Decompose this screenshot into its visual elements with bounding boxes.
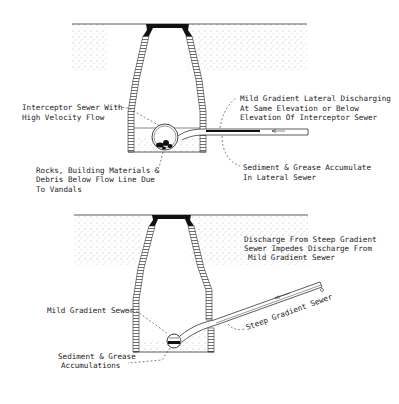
label-lateral-discharge: Mild Gradient Lateral Discharging At Sam… (240, 94, 395, 122)
manhole-diagram: Interceptor Sewer With High Velocity Flo… (0, 0, 399, 404)
interceptor-pipe (152, 124, 178, 150)
pipe-end-icon (321, 289, 324, 292)
bench-left-2 (139, 340, 169, 352)
label-sediment-2: Sediment & Grease Accumulations (58, 352, 140, 370)
leader-lateral (220, 98, 236, 128)
label-rocks: Rocks, Building Materials & Debris Below… (36, 166, 164, 194)
soil-left (72, 24, 108, 71)
wall-left (128, 36, 149, 152)
soil-left-2 (74, 215, 142, 265)
manhole-cover-2 (149, 215, 194, 226)
wall-right-lower (200, 134, 206, 152)
manhole-cover (143, 24, 192, 36)
figure-2: Discharge From Steep Gradient Sewer Impe… (47, 215, 381, 370)
leader-steep-sewer (228, 324, 245, 329)
label-mild-sewer: Mild Gradient Sewer (47, 306, 134, 315)
wall-right-lower-2 (208, 328, 214, 352)
figure-1: Interceptor Sewer With High Velocity Flo… (22, 24, 395, 194)
leader-sediment (222, 136, 240, 166)
label-sediment: Sediment & Grease Accumulate In Lateral … (243, 163, 376, 182)
label-discharge: Discharge From Steep Gradient Sewer Impe… (244, 235, 381, 262)
label-interceptor: Interceptor Sewer With High Velocity Flo… (22, 103, 127, 122)
soil-right (187, 24, 307, 71)
